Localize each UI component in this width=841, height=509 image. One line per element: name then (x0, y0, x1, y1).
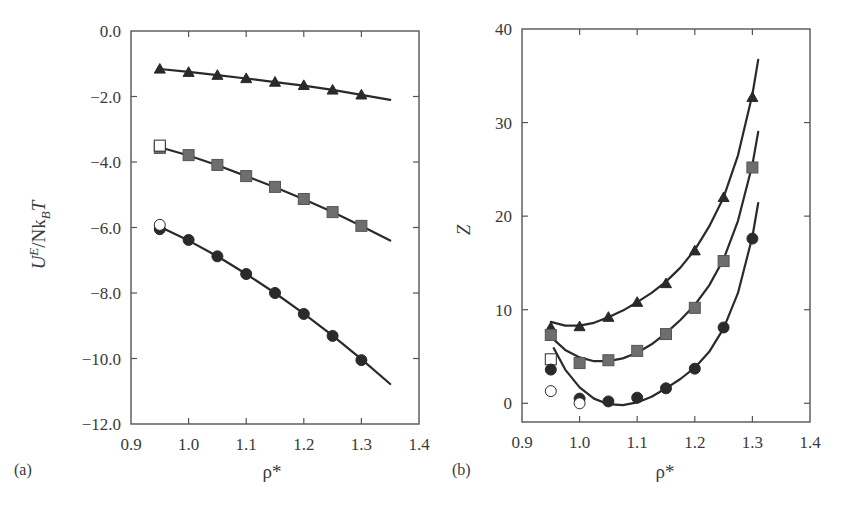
square-marker (545, 354, 556, 365)
circle-marker (747, 233, 758, 244)
circle-marker (241, 269, 252, 280)
circle-marker (545, 364, 556, 375)
x-tick-label: 1.2 (684, 433, 705, 452)
plot-frame (522, 29, 810, 422)
square-marker (356, 220, 367, 231)
y-tick-label: 20 (495, 207, 512, 226)
circle-marker (718, 322, 729, 333)
circle-marker (154, 219, 165, 230)
square-marker (747, 162, 758, 173)
triangle-marker (632, 297, 643, 307)
square-marker (183, 150, 194, 161)
y-tick-label: 10 (495, 301, 512, 320)
square-marker (689, 302, 700, 313)
x-tick-label: 0.9 (511, 433, 532, 452)
triangle-marker (747, 92, 758, 102)
circle-marker (183, 234, 194, 245)
square-marker (298, 194, 309, 205)
square-marker (603, 355, 614, 366)
x-tick-label: 0.9 (120, 435, 141, 454)
circle-marker (212, 251, 223, 262)
x-axis-label: ρ* (656, 461, 675, 482)
square-marker (718, 256, 729, 267)
x-axis-label: ρ* (263, 461, 282, 482)
y-tick-label: 0.0 (100, 22, 121, 41)
circle-marker (298, 308, 309, 319)
y-axis-label: UE/NkBT (26, 199, 53, 269)
y-tick-label: 0 (504, 394, 513, 413)
y-tick-label: −6.0 (90, 219, 121, 238)
circle-marker (689, 363, 700, 374)
circle-marker (356, 355, 367, 366)
circle-marker (545, 386, 556, 397)
panel-a-energy-chart: 0.91.01.11.21.31.40.0−2.0−4.0−6.0−8.0−10… (14, 22, 430, 482)
y-tick-label: −4.0 (90, 153, 121, 172)
square-marker (574, 358, 585, 369)
y-axis-label: Z (453, 224, 474, 235)
x-tick-label: 1.0 (569, 433, 590, 452)
y-tick-label: 30 (495, 114, 512, 133)
y-tick-label: −10.0 (82, 350, 121, 369)
x-tick-label: 1.3 (742, 433, 763, 452)
square-marker (632, 345, 643, 356)
x-tick-label: 1.4 (799, 433, 821, 452)
square-marker (327, 207, 338, 218)
y-tick-label: 40 (495, 20, 512, 39)
triangle-marker (661, 278, 672, 288)
circle-marker (632, 392, 643, 403)
panel-label: (a) (14, 461, 32, 479)
panel-b-compressibility-chart: 0.91.01.11.21.31.4010203040ρ*(b)Z (452, 20, 821, 482)
y-tick-label: −12.0 (82, 415, 121, 434)
circle-marker (661, 383, 672, 394)
y-tick-label: −8.0 (90, 284, 121, 303)
panel-label: (b) (452, 461, 471, 479)
square-marker (154, 140, 165, 151)
plot-frame (131, 31, 419, 424)
circle-marker (603, 396, 614, 407)
square-marker (241, 171, 252, 182)
x-tick-label: 1.0 (178, 435, 199, 454)
x-tick-label: 1.2 (293, 435, 314, 454)
square-marker (270, 181, 281, 192)
x-tick-label: 1.3 (351, 435, 372, 454)
fit-curve (554, 203, 759, 405)
fit-curve (551, 60, 758, 326)
square-marker (212, 159, 223, 170)
figure-canvas: 0.91.01.11.21.31.40.0−2.0−4.0−6.0−8.0−10… (0, 0, 841, 509)
figure: 0.91.01.11.21.31.40.0−2.0−4.0−6.0−8.0−10… (0, 0, 841, 509)
circle-marker (574, 398, 585, 409)
circle-marker (270, 288, 281, 299)
square-marker (661, 329, 672, 340)
triangle-marker (718, 192, 729, 202)
square-marker (545, 329, 556, 340)
circle-marker (327, 330, 338, 341)
x-tick-label: 1.1 (236, 435, 257, 454)
x-tick-label: 1.1 (627, 433, 648, 452)
triangle-marker (689, 245, 700, 255)
x-tick-label: 1.4 (408, 435, 430, 454)
y-tick-label: −2.0 (90, 88, 121, 107)
